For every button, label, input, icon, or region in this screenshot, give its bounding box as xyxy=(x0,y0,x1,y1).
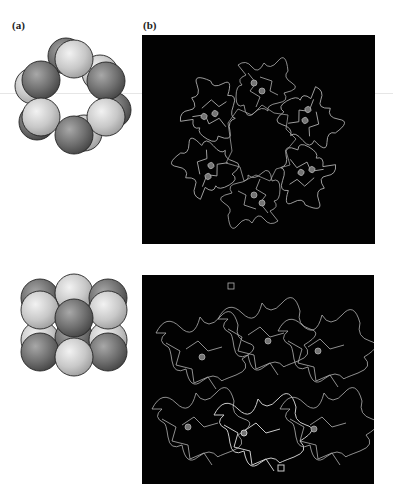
ribbon-structure-side-view xyxy=(142,275,374,484)
sphere-stack-model xyxy=(0,270,135,415)
panel-b-label: (b) xyxy=(143,19,156,31)
ribbon-structure-top-view xyxy=(142,35,375,244)
sphere-ring-model xyxy=(0,30,135,165)
